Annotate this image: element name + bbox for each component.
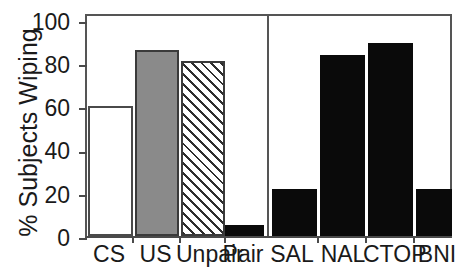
y-tick-mark-80 xyxy=(79,65,87,67)
y-tick-label-20: 20 xyxy=(0,182,70,209)
bar-pair xyxy=(225,225,264,236)
x-tick-mark-4 xyxy=(317,236,319,243)
x-tick-mark-1 xyxy=(132,236,134,243)
x-label-nal: NAL xyxy=(320,243,366,266)
x-label-pair: Pair xyxy=(222,243,264,266)
bar-cs xyxy=(88,106,133,236)
y-tick-label-40: 40 xyxy=(0,138,70,165)
y-tick-mark-40 xyxy=(79,152,87,154)
bar-us xyxy=(135,50,179,236)
y-tick-mark-20 xyxy=(79,195,87,197)
x-label-unpair: Unpair xyxy=(176,243,226,266)
bar-sal xyxy=(272,189,317,236)
x-label-sal: SAL xyxy=(269,243,315,266)
y-tick-label-100: 100 xyxy=(0,9,70,36)
y-axis-title: % Subjects Wiping xyxy=(14,13,43,253)
y-tick-label-80: 80 xyxy=(0,52,70,79)
bar-unpair xyxy=(181,61,225,236)
x-label-ctop: CTOP xyxy=(363,243,417,266)
bar-nal xyxy=(320,55,365,236)
bar-bni xyxy=(416,189,452,236)
bar-ctop xyxy=(368,43,413,236)
x-label-cs: CS xyxy=(86,243,132,266)
y-tick-mark-100 xyxy=(79,22,87,24)
x-label-us: US xyxy=(133,243,178,266)
y-tick-label-0: 0 xyxy=(0,225,70,252)
y-tick-mark-0 xyxy=(79,238,87,240)
group-divider-line xyxy=(267,16,269,236)
y-tick-mark-60 xyxy=(79,108,87,110)
x-label-bni: BNI xyxy=(416,243,458,266)
y-tick-label-60: 60 xyxy=(0,95,70,122)
bar-chart-figure: % Subjects Wiping 100 80 60 40 20 0 CS U… xyxy=(0,0,466,275)
plot-area xyxy=(85,14,452,238)
